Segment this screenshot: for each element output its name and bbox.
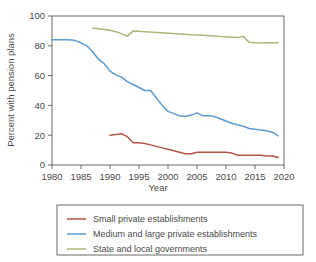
legend-item-label: Medium and large private establishments xyxy=(93,229,258,239)
pension-plans-line-chart: 020406080100 198019851990199520002005201… xyxy=(0,0,316,262)
y-tick-label: 20 xyxy=(34,130,45,141)
x-tick-label: 2015 xyxy=(244,171,265,182)
x-tick-label: 2000 xyxy=(157,171,178,182)
y-tick-label: 0 xyxy=(40,159,45,170)
legend-item-label: State and local governments xyxy=(93,244,208,254)
y-axis-title: Percent with pension plans xyxy=(5,33,16,147)
x-tick-label: 2020 xyxy=(273,171,294,182)
x-tick-label: 2005 xyxy=(186,171,207,182)
x-tick-label: 1985 xyxy=(70,171,91,182)
x-tick-label: 1980 xyxy=(41,171,62,182)
series-line xyxy=(52,40,278,136)
x-tick-label: 1990 xyxy=(99,171,120,182)
x-tick-label: 1995 xyxy=(128,171,149,182)
series-line xyxy=(93,28,279,43)
x-tick-label: 2010 xyxy=(215,171,236,182)
y-axis-ticks xyxy=(48,16,52,165)
y-tick-label: 100 xyxy=(29,10,45,21)
y-tick-label: 60 xyxy=(34,70,45,81)
y-axis-tick-labels: 020406080100 xyxy=(29,10,45,170)
y-tick-label: 80 xyxy=(34,40,45,51)
chart-legend: Small private establishmentsMedium and l… xyxy=(57,205,303,255)
series-line xyxy=(110,134,278,158)
y-tick-label: 40 xyxy=(34,100,45,111)
chart-figure: 020406080100 198019851990199520002005201… xyxy=(0,0,316,262)
x-axis-tick-labels: 198019851990199520002005201020152020 xyxy=(41,171,294,182)
legend-item[interactable]: Medium and large private establishments xyxy=(67,229,258,239)
legend-item-label: Small private establishments xyxy=(93,214,208,224)
data-series-group xyxy=(52,28,278,158)
plot-frame xyxy=(52,16,284,165)
x-axis-ticks xyxy=(52,165,284,169)
x-axis-title: Year xyxy=(148,182,167,193)
